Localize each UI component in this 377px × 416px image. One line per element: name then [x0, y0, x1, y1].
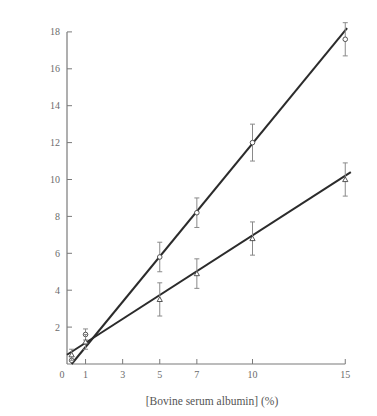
y-tick-label: 4 [55, 285, 60, 296]
y-tick-label: 8 [55, 211, 60, 222]
fit-lines [67, 28, 351, 364]
x-tick-label: 15 [340, 369, 350, 380]
data-point [195, 210, 200, 215]
x-tick-label: 1 [83, 369, 88, 380]
x-tick-label: 10 [248, 369, 258, 380]
x-tick-label: 7 [194, 369, 199, 380]
x-tick-label: 3 [120, 369, 125, 380]
data-point [343, 37, 348, 42]
data-points [69, 23, 348, 363]
bsa-chart: 01357101524681012141618 [Bovine serum al… [0, 0, 377, 416]
fit-line [72, 28, 347, 364]
data-point [250, 140, 255, 145]
y-tick-label: 6 [55, 248, 60, 259]
data-point [157, 255, 162, 260]
y-tick-label: 18 [50, 26, 60, 37]
y-tick-label: 12 [50, 137, 60, 148]
x-tick-label: 5 [157, 369, 162, 380]
y-tick-label: 14 [50, 100, 60, 111]
x-tick-label: 0 [60, 369, 65, 380]
y-tick-label: 10 [50, 174, 60, 185]
y-tick-label: 2 [55, 322, 60, 333]
data-point [157, 297, 162, 302]
fit-line [67, 172, 351, 355]
y-tick-label: 16 [50, 63, 60, 74]
x-axis-title: [Bovine serum albumin] (%) [146, 395, 279, 408]
